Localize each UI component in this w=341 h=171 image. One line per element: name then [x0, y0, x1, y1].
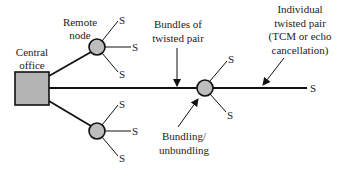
individual-label-1: Individual	[277, 3, 322, 15]
bundles-label-2: twisted pair	[152, 32, 204, 44]
link-to-lower-node	[49, 101, 91, 126]
link-to-upper-node	[49, 52, 91, 76]
bundling-arrow	[178, 99, 198, 127]
lower-remote-node	[89, 123, 105, 139]
subscriber-label: S	[119, 68, 125, 80]
bundling-label-2: unbundling	[159, 144, 210, 156]
remote-node-label-1: Remote	[63, 16, 97, 28]
individual-label-3: (TCM or echo	[269, 30, 332, 43]
individual-label-4: cancellation)	[272, 44, 329, 57]
remote-node-label-2: node	[69, 29, 91, 41]
bundles-label-1: Bundles of	[154, 18, 202, 30]
individual-arrow	[263, 58, 284, 85]
subscriber-label: S	[228, 53, 234, 65]
end-subscriber-label: S	[310, 82, 316, 94]
bundling-node	[197, 80, 213, 96]
network-diagram: Central office Remote node S S S S S S B…	[0, 0, 341, 171]
subscriber-label: S	[132, 125, 138, 137]
individual-label-2: twisted pair	[274, 17, 326, 29]
subscriber-label: S	[119, 14, 125, 26]
subscriber-label: S	[119, 98, 125, 110]
central-office-label-1: Central	[16, 46, 48, 58]
subscriber-label: S	[227, 109, 233, 121]
central-office-box	[15, 72, 49, 105]
subscriber-label: S	[132, 41, 138, 53]
central-office-label-2: office	[19, 59, 45, 71]
bundling-label-1: Bundling/	[162, 130, 207, 142]
upper-remote-node	[89, 39, 105, 55]
subscriber-label: S	[119, 152, 125, 164]
